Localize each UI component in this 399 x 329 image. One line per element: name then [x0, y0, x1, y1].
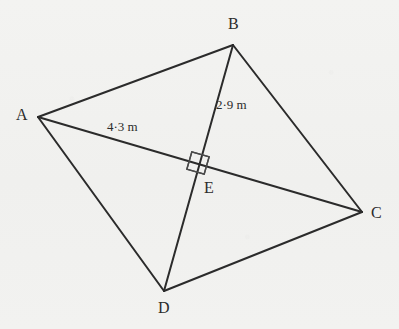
measurement-label-ae: 4·3 m — [107, 120, 138, 133]
vertex-label-c: C — [371, 205, 382, 221]
diagonal-bd — [164, 45, 233, 291]
quadrilateral-sides — [38, 45, 362, 291]
measurement-label-be: 2·9 m — [216, 98, 247, 111]
edge-cd — [164, 212, 362, 291]
edge-da — [38, 117, 164, 291]
vertex-label-e: E — [204, 180, 214, 196]
geometry-figure: A B C D E 4·3 m 2·9 m — [0, 0, 399, 329]
edge-bc — [233, 45, 362, 212]
vertex-label-d: D — [158, 300, 170, 316]
edge-ab — [38, 45, 233, 117]
vertex-label-b: B — [228, 16, 239, 32]
geometry-canvas — [0, 0, 399, 329]
quadrilateral-diagonals — [38, 45, 362, 291]
vertex-label-a: A — [16, 107, 28, 123]
